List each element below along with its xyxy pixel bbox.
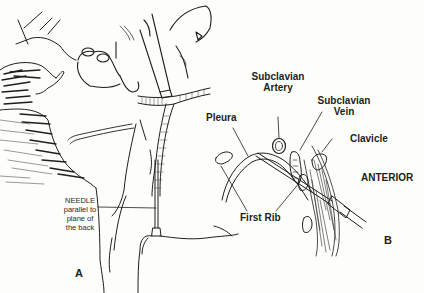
- subclavian-artery-label-line1: Subclavian: [248, 72, 308, 83]
- first-rib-label: First Rib: [240, 213, 281, 224]
- vessel-a: [138, 88, 210, 196]
- subclavian-vein-label-line1: Subclavian: [314, 96, 374, 107]
- subclavian-vein-label-line2: Vein: [314, 107, 374, 118]
- neck-outline: [109, 120, 151, 272]
- tubing: [68, 124, 132, 140]
- panel-a-drawing: [0, 6, 238, 293]
- drape: [16, 12, 76, 60]
- subclavian-vein-label: Subclavian Vein: [314, 96, 374, 117]
- needle-a: [152, 160, 161, 236]
- needle-label-line1: NEEDLE: [58, 196, 102, 205]
- panel-b-letter: B: [384, 235, 392, 247]
- patient-head: [0, 63, 104, 293]
- needle-label-line3: plane of: [58, 214, 102, 223]
- needle-leader-line: [98, 207, 156, 208]
- clavicle-muscle-band: [304, 146, 339, 256]
- pleura-dome: [222, 153, 312, 202]
- operator-hand: [78, 6, 212, 98]
- subclavian-artery: [273, 139, 286, 154]
- anterior-label: ANTERIOR: [361, 173, 413, 184]
- panel-a-letter: A: [75, 268, 83, 280]
- leader-lines-b: [221, 112, 332, 211]
- pleura-nodule: [215, 152, 232, 164]
- medical-illustration: NEEDLE parallel to plane of the back A S…: [0, 0, 424, 293]
- subclavian-artery-label: Subclavian Artery: [248, 72, 308, 93]
- needle-label-line4: the back: [58, 223, 102, 232]
- subclavian-artery-label-line2: Artery: [248, 83, 308, 94]
- needle-label: NEEDLE parallel to plane of the back: [58, 196, 102, 232]
- illustration-drawing: [0, 0, 424, 293]
- pleura-label: Pleura: [206, 113, 237, 124]
- clavicle-label: Clavicle: [350, 134, 388, 145]
- needle-label-line2: parallel to: [58, 205, 102, 214]
